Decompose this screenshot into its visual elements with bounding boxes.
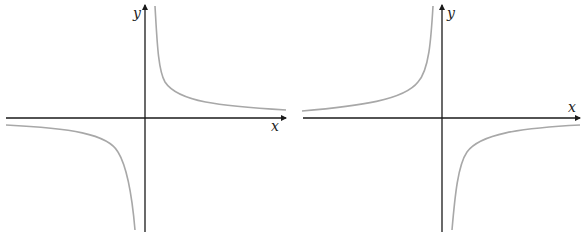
- right-y-label: y: [446, 5, 456, 21]
- left-branch-quadrant-1: [155, 6, 286, 110]
- right-branch-quadrant-4: [452, 125, 580, 230]
- right-graph: y x: [302, 5, 580, 232]
- left-y-label: y: [132, 5, 142, 21]
- hyperbola-diagrams: y x y x: [0, 0, 583, 239]
- right-x-label: x: [568, 99, 576, 115]
- left-branch-quadrant-3: [6, 125, 135, 230]
- left-x-label: x: [271, 118, 279, 134]
- left-graph: y x: [6, 5, 286, 232]
- right-branch-quadrant-2: [302, 6, 433, 111]
